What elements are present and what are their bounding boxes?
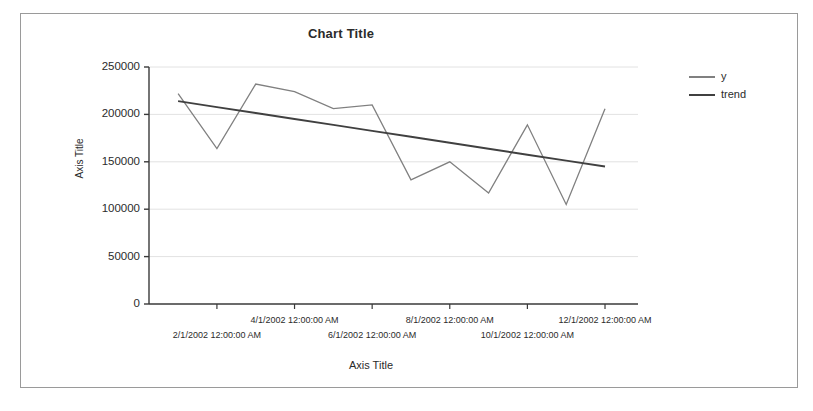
x-tick-label: 4/1/2002 12:00:00 AM [250,315,338,325]
legend-label: y [721,71,727,82]
y-tick-label: 50000 [78,251,140,262]
x-tick-label: 10/1/2002 12:00:00 AM [481,330,574,340]
x-axis-ticks [217,304,605,309]
y-tick-label: 200000 [78,108,140,119]
x-tick-label: 2/1/2002 12:00:00 AM [173,330,261,340]
data-series-y [178,84,605,204]
data-series-trend [178,101,605,166]
gridlines [149,67,638,257]
legend-item[interactable]: trend [689,87,789,102]
chart-frame: Chart Title Axis Title Axis Title 050000… [20,13,798,388]
x-tick-label: 6/1/2002 12:00:00 AM [328,330,416,340]
legend-swatch-icon [689,76,715,78]
y-tick-label: 250000 [78,61,140,72]
legend-item[interactable]: y [689,69,789,84]
chart-legend: ytrend [689,69,789,105]
y-tick-label: 150000 [78,156,140,167]
x-tick-label: 8/1/2002 12:00:00 AM [406,315,494,325]
x-axis-title: Axis Title [121,359,621,371]
y-tick-label: 100000 [78,203,140,214]
legend-swatch-icon [689,94,715,96]
y-axis-ticks [144,67,149,304]
legend-label: trend [721,89,746,100]
y-tick-label: 0 [78,298,140,309]
x-tick-label: 12/1/2002 12:00:00 AM [558,315,651,325]
